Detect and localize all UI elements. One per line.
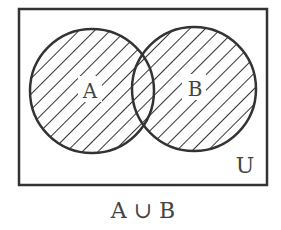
set-b-label: B [188, 77, 203, 101]
universe-label: U [236, 153, 255, 178]
caption: A ∪ B [110, 198, 175, 223]
set-a-label: A [82, 79, 98, 103]
union-hatch [0, 0, 281, 230]
venn-diagram: A B U A ∪ B [0, 0, 281, 230]
